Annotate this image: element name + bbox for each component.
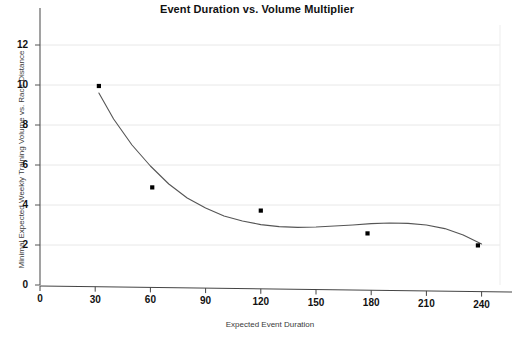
x-tick-label-210: 210 [406, 299, 446, 309]
axis-lines-group [40, 8, 512, 292]
x-tick-label-30: 30 [75, 295, 115, 305]
y-tick-label-2: 2 [2, 240, 28, 250]
data-markers-group [97, 84, 480, 248]
y-tick-label-6: 6 [2, 160, 28, 170]
data-point-4 [476, 243, 480, 247]
y-tick-label-10: 10 [2, 80, 28, 90]
chart-container: Event Duration vs. Volume Multiplier Min… [0, 0, 514, 339]
x-tick-label-90: 90 [186, 296, 226, 306]
x-tick-label-150: 150 [296, 298, 336, 308]
data-point-1 [150, 185, 154, 189]
y-tick-label-8: 8 [2, 120, 28, 130]
x-tick-label-180: 180 [351, 298, 391, 308]
gridlines-group [40, 25, 500, 285]
x-tick-label-0: 0 [20, 294, 60, 304]
y-tick-label-0: 0 [2, 280, 28, 290]
y-tick-label-12: 12 [2, 40, 28, 50]
y-tick-label-4: 4 [2, 200, 28, 210]
tick-marks-group [35, 45, 482, 297]
x-tick-label-120: 120 [241, 297, 281, 307]
plot-area [0, 0, 514, 339]
x-tick-label-60: 60 [130, 295, 170, 305]
data-point-3 [365, 231, 369, 235]
trend-line-group [99, 93, 482, 244]
trend-curve [99, 93, 482, 244]
data-point-2 [259, 209, 263, 213]
x-tick-label-240: 240 [462, 300, 502, 310]
data-point-0 [97, 84, 101, 88]
x-axis-line [40, 286, 512, 292]
